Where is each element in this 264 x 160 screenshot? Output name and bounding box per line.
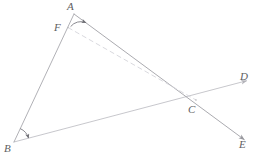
point-label-d: D <box>240 71 248 82</box>
ray-ae <box>74 14 244 140</box>
ray-bd <box>14 81 247 142</box>
vertex-point-c <box>195 99 196 100</box>
point-label-f: F <box>54 22 61 33</box>
angle-arc-a <box>71 22 86 27</box>
segment-ab <box>14 14 74 142</box>
angle-arc-b <box>20 129 28 138</box>
geometry-diagram-svg <box>0 0 264 160</box>
segment-fc-dashed <box>68 28 196 101</box>
point-label-a: A <box>67 1 74 12</box>
point-label-e: E <box>239 139 246 150</box>
point-label-b: B <box>4 143 11 154</box>
vertex-point-f <box>67 27 68 28</box>
point-label-c: C <box>188 104 195 115</box>
